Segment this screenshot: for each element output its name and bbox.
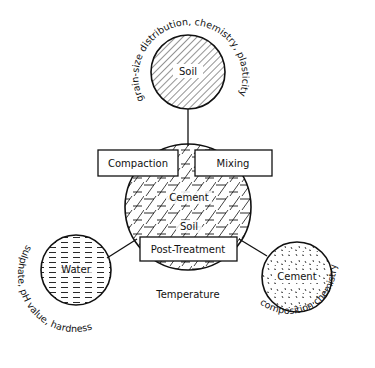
water-label: Water [61,264,91,275]
connector-cement [239,239,267,256]
cement-label: Cement [277,271,316,282]
svg-text:Post-Treatment: Post-Treatment [151,244,226,255]
water-node: Water sulphate, pH value, hardness [16,235,111,334]
connector-water [107,239,137,258]
mixture-cement-label: Cement [169,192,208,203]
post-treatment-box: Post-Treatment [140,237,237,261]
soil-node: Soil grain-size distribution, chemistry,… [129,16,251,109]
cement-node: Cement composition chemistry [258,242,338,316]
mixture-soil-label: Soil [180,221,198,232]
svg-text:Mixing: Mixing [217,158,250,169]
soil-cement-diagram: Soil grain-size distribution, chemistry,… [0,0,375,368]
mixing-box: Mixing [195,150,272,176]
temperature-label: Temperature [155,289,219,300]
compaction-box: Compaction [98,150,178,176]
svg-text:Compaction: Compaction [108,158,168,169]
soil-label: Soil [179,66,197,77]
